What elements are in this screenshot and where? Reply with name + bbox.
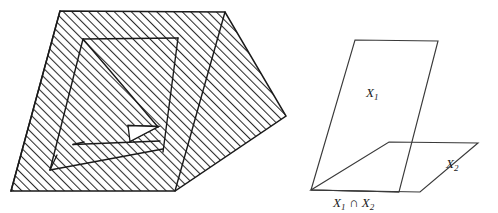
- right-panel-group: X1 X2 X1∩X2: [311, 40, 478, 212]
- label-cap-subscript1: 1: [341, 202, 346, 212]
- label-x2: X2: [445, 156, 459, 173]
- label-x1: X1: [365, 85, 378, 102]
- label-x2-subscript: 2: [454, 163, 459, 173]
- label-x1-subscript: 1: [374, 92, 379, 102]
- intersection-operator-icon: ∩: [349, 195, 358, 210]
- figure-root: X1 X2 X1∩X2: [0, 0, 498, 213]
- left-panel-group: [11, 11, 286, 191]
- diagram-canvas: X1 X2 X1∩X2: [0, 0, 498, 213]
- label-x1-cap-x2: X1∩X2: [332, 195, 375, 212]
- label-cap-subscript2: 2: [370, 202, 375, 212]
- inner-top-edge: [83, 38, 178, 39]
- plane-x1-outline: [311, 40, 438, 192]
